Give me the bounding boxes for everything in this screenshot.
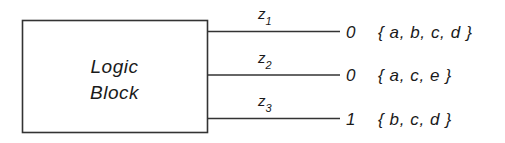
signal-subscript-z1: 1 [266, 15, 272, 27]
signal-base-z1: z [258, 5, 266, 22]
signal-subscript-z3: 3 [266, 102, 272, 114]
signal-base-z3: z [258, 92, 266, 109]
signal-label-z1: z1 [258, 5, 272, 25]
output-value-z1: 0 [346, 23, 355, 43]
logic-block-label-line2: Block [22, 83, 207, 102]
signal-base-z2: z [258, 49, 266, 66]
output-value-z3: 1 [346, 110, 355, 130]
logic-block-diagram: Logic Block z1 z2 z3 0 { a, b, c, d } 0 … [0, 0, 505, 143]
logic-block-label-line1: Logic [22, 57, 207, 76]
output-set-z1: { a, b, c, d } [378, 23, 472, 43]
output-value-z2: 0 [346, 66, 355, 86]
signal-subscript-z2: 2 [266, 59, 272, 71]
signal-label-z3: z3 [258, 92, 272, 112]
output-set-z3: { b, c, d } [378, 110, 452, 130]
signal-label-z2: z2 [258, 49, 272, 69]
output-set-z2: { a, c, e } [378, 66, 452, 86]
